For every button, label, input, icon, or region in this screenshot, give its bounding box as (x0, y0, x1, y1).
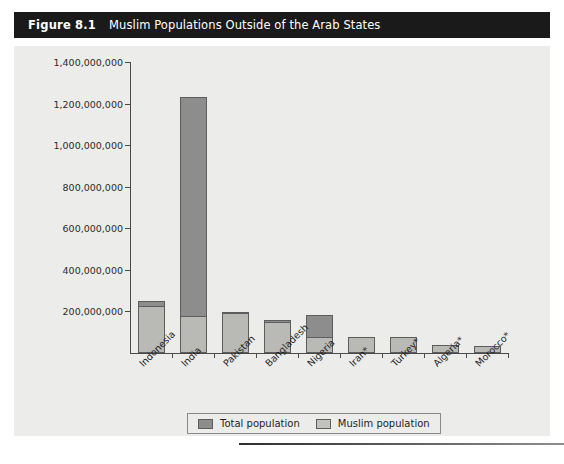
legend-label-total: Total population (220, 418, 300, 429)
bar-group (348, 62, 375, 353)
y-tick-label: 1,400,000,000 (53, 57, 123, 68)
y-tick-label: 800,000,000 (63, 181, 123, 192)
x-tick-mark (256, 353, 257, 358)
x-tick-mark (340, 353, 341, 358)
chart-legend: Total population Muslim population (187, 413, 441, 434)
x-tick-mark (466, 353, 467, 358)
legend-label-muslim: Muslim population (338, 418, 430, 429)
figure-number: Figure 8.1 (28, 18, 96, 32)
legend-item-total: Total population (198, 418, 300, 429)
x-tick-mark (424, 353, 425, 358)
y-tick-label: 1,000,000,000 (53, 140, 123, 151)
bottom-rule (239, 443, 564, 445)
bar-group (474, 62, 501, 353)
y-tick-label: 1,200,000,000 (53, 98, 123, 109)
plot-area (130, 62, 508, 353)
legend-swatch-total (198, 419, 213, 429)
figure-title-banner: Figure 8.1 Muslim Populations Outside of… (14, 12, 550, 38)
y-tick-label: 400,000,000 (63, 264, 123, 275)
bar-group (432, 62, 459, 353)
x-tick-mark (508, 353, 509, 358)
bar-group (138, 62, 165, 353)
x-tick-mark (214, 353, 215, 358)
chart-panel: 1,400,000,0001,200,000,0001,000,000,0008… (14, 46, 550, 436)
x-tick-mark (172, 353, 173, 358)
bar-total-population (180, 97, 207, 353)
legend-item-muslim: Muslim population (316, 418, 430, 429)
bar-group (390, 62, 417, 353)
figure-title: Muslim Populations Outside of the Arab S… (109, 18, 380, 32)
bar-group (306, 62, 333, 353)
y-tick-label: 200,000,000 (63, 306, 123, 317)
x-tick-mark (298, 353, 299, 358)
bar-group (264, 62, 291, 353)
legend-swatch-muslim (316, 419, 331, 429)
bar-group (222, 62, 249, 353)
y-tick-label: 600,000,000 (63, 223, 123, 234)
bar-group (180, 62, 207, 353)
x-tick-mark (382, 353, 383, 358)
